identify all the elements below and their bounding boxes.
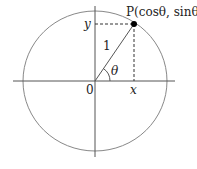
- angle-arc: [104, 69, 111, 81]
- point-p: [131, 21, 137, 27]
- angle-label: θ: [111, 65, 118, 77]
- y-label: y: [84, 18, 91, 30]
- unit-circle-diagram: [0, 0, 197, 169]
- x-label: x: [130, 84, 137, 96]
- point-label: P(cosθ, sinθ): [126, 6, 197, 18]
- radius-label: 1: [103, 40, 111, 52]
- origin-label: 0: [86, 84, 94, 96]
